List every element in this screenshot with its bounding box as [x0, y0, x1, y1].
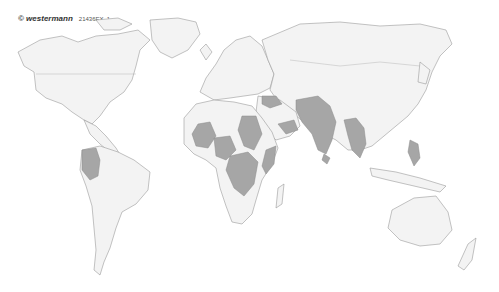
indonesia [370, 168, 446, 192]
madagascar [276, 184, 284, 208]
asia [256, 22, 452, 164]
greenland [150, 18, 200, 58]
oceania [370, 140, 476, 270]
philippines [408, 140, 420, 166]
sri-lanka [322, 154, 330, 164]
europe [200, 36, 274, 100]
new-zealand [458, 238, 476, 270]
world-map [0, 0, 499, 292]
north-america [18, 18, 200, 158]
south-america [80, 146, 150, 275]
australia [388, 196, 452, 246]
uk [200, 44, 212, 60]
